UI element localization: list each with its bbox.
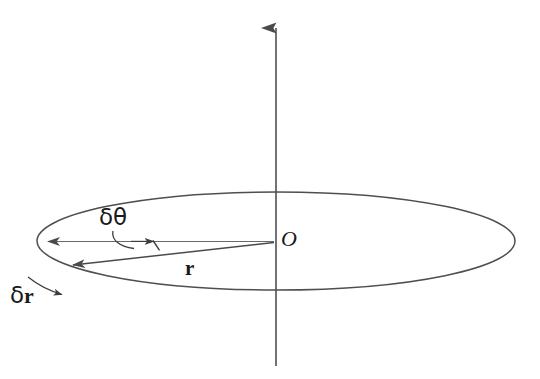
label-radius-vector: r (185, 258, 194, 279)
label-delta-r-symbol: r (24, 283, 34, 308)
radius-line-lower (73, 243, 274, 266)
figure-root: δθ δr r O (0, 0, 540, 379)
leader-line-delta-theta (113, 231, 134, 249)
diagram-canvas (0, 0, 540, 379)
label-delta-r: δr (10, 284, 34, 307)
label-delta-theta: δθ (99, 206, 127, 229)
label-origin: O (281, 228, 297, 250)
label-delta-r-prefix: δ (10, 282, 24, 308)
